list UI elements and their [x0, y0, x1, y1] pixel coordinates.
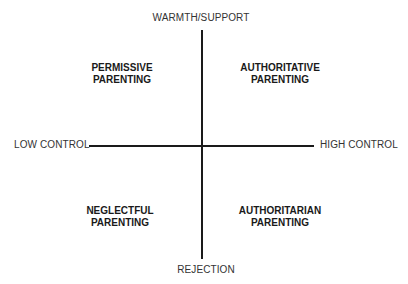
- quadrant-label-line1: NEGLECTFUL: [60, 205, 180, 217]
- quadrant-permissive-parenting: PERMISSIVE PARENTING: [62, 62, 182, 86]
- axis-label-warmth-support: WARMTH/SUPPORT: [0, 12, 408, 23]
- quadrant-neglectful-parenting: NEGLECTFUL PARENTING: [60, 205, 180, 229]
- quadrant-authoritative-parenting: AUTHORITATIVE PARENTING: [220, 62, 340, 86]
- quadrant-authoritarian-parenting: AUTHORITARIAN PARENTING: [220, 205, 340, 229]
- quadrant-label-line2: PARENTING: [62, 74, 182, 86]
- quadrant-label-line2: PARENTING: [220, 74, 340, 86]
- quadrant-label-line2: PARENTING: [220, 217, 340, 229]
- axis-label-low-control: LOW CONTROL: [14, 139, 90, 150]
- axis-label-rejection: REJECTION: [0, 264, 408, 275]
- quadrant-label-line1: PERMISSIVE: [62, 62, 182, 74]
- axis-label-high-control: HIGH CONTROL: [320, 139, 398, 150]
- axis-label-top-text: WARMTH/SUPPORT: [153, 12, 250, 23]
- horizontal-axis-line: [89, 145, 314, 147]
- quadrant-label-line1: AUTHORITATIVE: [220, 62, 340, 74]
- axis-label-bottom-text: REJECTION: [177, 264, 235, 275]
- quadrant-label-line1: AUTHORITARIAN: [220, 205, 340, 217]
- quadrant-label-line2: PARENTING: [60, 217, 180, 229]
